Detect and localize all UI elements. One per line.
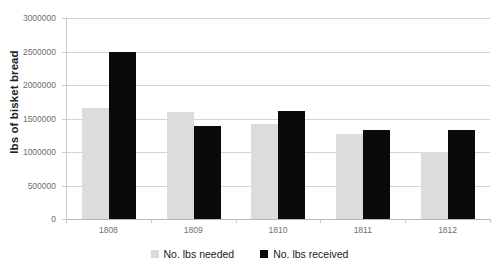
bar-1812-received[interactable] <box>448 130 475 219</box>
legend-swatch-needed-icon <box>151 250 159 258</box>
bar-1811-received[interactable] <box>363 130 390 219</box>
chart-legend: No. lbs neededNo. lbs received <box>0 248 499 260</box>
bar-chart: lbs of bisket bread 05000001000000150000… <box>0 0 499 273</box>
y-axis-tick-labels: 0500000100000015000002000000250000030000… <box>0 18 62 219</box>
x-tick-label-1811: 1811 <box>320 221 405 239</box>
bar-group-1812 <box>405 18 490 219</box>
x-tick-label-1808: 1808 <box>66 221 151 239</box>
bar-1810-needed[interactable] <box>251 124 278 219</box>
bar-1812-needed[interactable] <box>421 152 448 219</box>
bar-group-1809 <box>152 18 237 219</box>
y-tick-label: 2000000 <box>23 80 56 90</box>
y-tick-label: 500000 <box>28 181 56 191</box>
bar-group-1810 <box>236 18 321 219</box>
x-tick-mark <box>490 219 491 223</box>
x-axis-tick-labels: 18081809181018111812 <box>66 221 490 239</box>
bar-1809-received[interactable] <box>194 126 221 219</box>
bar-group-1808 <box>67 18 152 219</box>
plot-area <box>66 18 490 219</box>
bar-1809-needed[interactable] <box>167 112 194 219</box>
chart-title-cropped <box>0 0 499 6</box>
y-tick-label: 3000000 <box>23 13 56 23</box>
y-tick-label: 1000000 <box>23 147 56 157</box>
legend-label: No. lbs received <box>273 248 348 260</box>
legend-item-needed[interactable]: No. lbs needed <box>151 248 235 260</box>
legend-label: No. lbs needed <box>164 248 235 260</box>
bar-1808-received[interactable] <box>109 52 136 220</box>
bar-group-1811 <box>321 18 406 219</box>
legend-item-received[interactable]: No. lbs received <box>260 248 348 260</box>
y-tick-label: 1500000 <box>23 114 56 124</box>
y-tick-label: 2500000 <box>23 47 56 57</box>
bar-1808-needed[interactable] <box>82 108 109 219</box>
legend-swatch-received-icon <box>260 250 268 258</box>
y-tick-label: 0 <box>51 214 56 224</box>
bar-1810-received[interactable] <box>278 111 305 219</box>
bar-1811-needed[interactable] <box>336 134 363 219</box>
bar-groups <box>67 18 490 219</box>
x-tick-label-1809: 1809 <box>151 221 236 239</box>
x-tick-label-1810: 1810 <box>236 221 321 239</box>
x-tick-label-1812: 1812 <box>405 221 490 239</box>
